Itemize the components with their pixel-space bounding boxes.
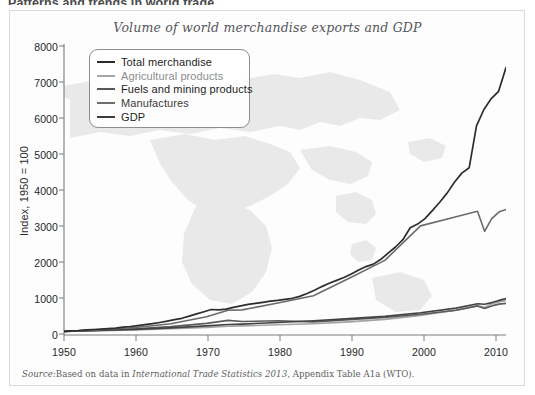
legend-swatch-icon xyxy=(97,116,115,118)
legend-swatch-icon xyxy=(97,88,115,90)
source-note: Source:Based on data in International Tr… xyxy=(22,369,414,379)
legend-swatch-icon xyxy=(97,102,115,104)
legend-swatch-icon xyxy=(97,61,115,63)
source-italic-title: International Trade Statistics 2013 xyxy=(132,369,287,379)
legend-item-total-merchandise: Total merchandise xyxy=(97,55,249,69)
legend-item-fuels-and-mining-products: Fuels and mining products xyxy=(97,83,249,97)
legend-label: Fuels and mining products xyxy=(121,83,253,95)
figure-container: Patterns and trends in world trade Volum… xyxy=(0,0,535,395)
legend-item-gdp: GDP xyxy=(97,110,249,124)
x-tick-marks xyxy=(64,335,496,341)
legend-item-manufactures: Manufactures xyxy=(97,96,249,110)
chart-legend: Total merchandise Agricultural products … xyxy=(89,49,250,128)
legend-label: Total merchandise xyxy=(121,56,212,68)
legend-label: Manufactures xyxy=(121,97,189,109)
source-text-a: Based on data in xyxy=(56,369,132,379)
legend-item-agricultural-products: Agricultural products xyxy=(97,69,249,83)
plot-area xyxy=(0,0,535,395)
legend-swatch-icon xyxy=(97,75,115,77)
source-prefix: Source: xyxy=(22,369,56,379)
y-tick-marks xyxy=(59,46,64,334)
legend-label: GDP xyxy=(121,111,145,123)
source-text-b: , Appendix Table A1a (WTO). xyxy=(287,369,414,379)
legend-label: Agricultural products xyxy=(121,70,223,82)
